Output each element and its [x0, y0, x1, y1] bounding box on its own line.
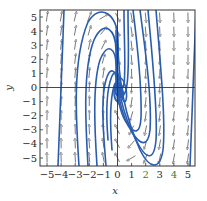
x-tick-label: 3 [157, 169, 163, 180]
y-tick-label: −4 [22, 138, 37, 149]
y-tick-label: −1 [22, 96, 37, 107]
field-arrow [160, 13, 161, 22]
y-tick-label: 1 [31, 68, 37, 79]
x-tick-label: −4 [54, 169, 69, 180]
y-tick-label: 3 [31, 40, 37, 51]
field-arrow [75, 154, 76, 163]
y-tick-label: 0 [31, 82, 37, 93]
x-tick-label: −3 [68, 169, 83, 180]
y-tick-label: 5 [31, 12, 37, 23]
y-tick-label: −2 [22, 110, 37, 121]
y-tick-label: 4 [31, 26, 37, 37]
x-tick-label: 1 [128, 169, 134, 180]
y-tick-label: −3 [22, 124, 37, 135]
x-tick-label: 5 [185, 169, 191, 180]
y-axis-label: y [3, 85, 14, 92]
x-tick-label: 2 [143, 169, 149, 180]
y-tick-label: −5 [22, 153, 37, 164]
y-tick-label: 2 [31, 54, 37, 65]
phase-portrait-figure: −5−4−3−2−1012345 −5−4−3−2−1012345 x y [0, 0, 207, 201]
x-tick-label: 4 [171, 169, 177, 180]
x-tick-label: −2 [82, 169, 97, 180]
x-axis-label: x [112, 185, 118, 196]
x-tick-label: 0 [114, 169, 120, 180]
x-tick-label: −5 [40, 169, 55, 180]
x-tick-label: −1 [96, 169, 111, 180]
